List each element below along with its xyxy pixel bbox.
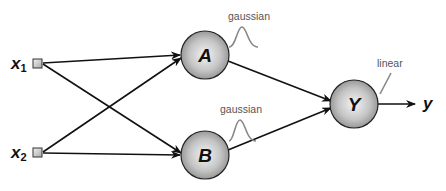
gaussian-icon-B (229, 120, 256, 141)
input-x2: x2 (10, 143, 42, 163)
node-A: A (181, 31, 229, 79)
input-box-x1 (33, 59, 42, 68)
node-label-B: B (198, 145, 212, 166)
node-label-A: A (197, 45, 212, 66)
output-label-y: y (422, 94, 434, 113)
activation-label-Y: linear (377, 57, 403, 69)
edge-x1-A (43, 55, 180, 63)
input-label-x1: x1 (10, 54, 27, 74)
activation-label-A: gaussian (228, 10, 270, 22)
node-Y: Y (330, 80, 378, 128)
edge-x2-A (43, 58, 181, 152)
edge-A-Y (228, 61, 331, 101)
input-x1: x1 (10, 54, 42, 74)
network-diagram: x1 x2 A gaussian B gaussian Y linear y (0, 0, 446, 191)
linear-icon-Y (380, 73, 391, 94)
gaussian-icon-A (229, 27, 258, 47)
input-box-x2 (33, 148, 42, 157)
edge-x2-B (43, 153, 180, 155)
input-label-x2: x2 (10, 143, 27, 163)
activation-label-B: gaussian (220, 103, 262, 115)
node-B: B (181, 131, 229, 179)
edge-x1-B (43, 64, 181, 153)
